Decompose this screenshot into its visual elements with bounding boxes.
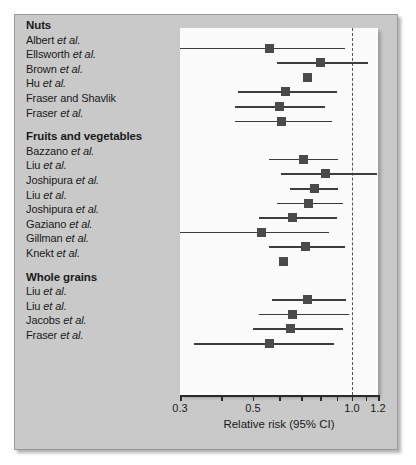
point-estimate-marker <box>265 44 274 53</box>
forest-row <box>180 85 378 99</box>
x-axis: 0.30.51.01.2 <box>180 395 378 397</box>
axis-tick <box>253 395 255 401</box>
forest-row <box>180 153 378 167</box>
plot-area <box>180 28 378 395</box>
axis-tick-label: 0.3 <box>172 402 187 414</box>
point-estimate-marker <box>310 184 319 193</box>
forest-row <box>180 293 378 307</box>
study-label: Albert et al. <box>26 35 80 46</box>
confidence-interval-line <box>259 217 337 219</box>
point-estimate-marker <box>303 295 312 304</box>
forest-row <box>180 308 378 322</box>
confidence-interval-line <box>180 232 329 234</box>
group-heading-nuts: Nuts <box>26 20 51 31</box>
x-axis-title: Relative risk (95% CI) <box>180 418 378 430</box>
point-estimate-marker <box>316 58 325 67</box>
forest-row <box>180 197 378 211</box>
point-estimate-marker <box>299 155 308 164</box>
point-estimate-marker <box>281 87 290 96</box>
axis-tick <box>378 395 380 401</box>
point-estimate-marker <box>303 73 312 82</box>
study-label: Bazzano et al. <box>26 146 94 157</box>
forest-row <box>180 255 378 269</box>
point-estimate-marker <box>286 324 295 333</box>
study-label: Liu et al. <box>26 301 67 312</box>
point-estimate-marker <box>265 339 274 348</box>
study-label: Knekt et al. <box>26 248 80 259</box>
confidence-interval-line <box>180 48 345 50</box>
forest-row <box>180 115 378 129</box>
forest-row <box>180 322 378 336</box>
point-estimate-marker <box>275 102 284 111</box>
study-label: Gaziano et al. <box>26 219 92 230</box>
point-estimate-marker <box>301 242 310 251</box>
study-label: Ellsworth et al. <box>26 49 96 60</box>
forest-row <box>180 100 378 114</box>
confidence-interval-line <box>253 328 343 330</box>
point-estimate-marker <box>304 199 313 208</box>
point-estimate-marker <box>257 228 266 237</box>
study-label: Liu et al. <box>26 286 67 297</box>
forest-row <box>180 42 378 56</box>
forest-row <box>180 226 378 240</box>
confidence-interval-line <box>259 314 350 316</box>
study-label: Brown et al. <box>26 64 83 75</box>
group-heading-fruits-and-vegetables: Fruits and vegetables <box>26 131 142 142</box>
axis-tick <box>352 395 354 401</box>
study-label: Fraser and Shavlik <box>26 93 116 104</box>
point-estimate-marker <box>321 169 330 178</box>
point-estimate-marker <box>279 257 288 266</box>
forest-row <box>180 240 378 254</box>
forest-row <box>180 337 378 351</box>
forest-row <box>180 167 378 181</box>
study-label: Joshipura et al. <box>26 204 99 215</box>
axis-tick <box>320 395 322 401</box>
axis-tick <box>301 395 303 401</box>
study-label-column: NutsAlbert et al.Ellsworth et al.Brown e… <box>26 22 178 392</box>
axis-tick <box>366 395 368 401</box>
study-label: Liu et al. <box>26 190 67 201</box>
confidence-interval-line <box>194 343 334 345</box>
study-label: Liu et al. <box>26 160 67 171</box>
forest-row <box>180 71 378 85</box>
point-estimate-marker <box>288 310 297 319</box>
point-estimate-marker <box>288 213 297 222</box>
axis-tick <box>337 395 339 401</box>
point-estimate-marker <box>277 117 286 126</box>
axis-tick <box>221 395 223 401</box>
study-label: Hu et al. <box>26 78 66 89</box>
group-heading-whole-grains: Whole grains <box>26 272 97 283</box>
axis-tick-label: 1.0 <box>344 402 359 414</box>
study-label: Jacobs et al. <box>26 315 86 326</box>
forest-row <box>180 182 378 196</box>
forest-row <box>180 56 378 70</box>
study-label: Fraser et al. <box>26 330 83 341</box>
forest-plot-figure: NutsAlbert et al.Ellsworth et al.Brown e… <box>0 0 416 465</box>
axis-tick <box>279 395 281 401</box>
axis-tick <box>180 395 182 401</box>
axis-tick-label: 0.5 <box>245 402 260 414</box>
axis-tick-label: 1.2 <box>370 402 385 414</box>
study-label: Joshipura et al. <box>26 175 99 186</box>
study-label: Fraser et al. <box>26 108 83 119</box>
forest-row <box>180 211 378 225</box>
study-label: Gillman et al. <box>26 233 89 244</box>
